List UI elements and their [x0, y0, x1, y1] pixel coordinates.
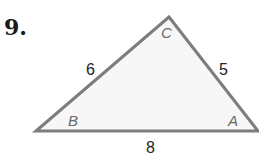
side-length-ca: 5	[219, 61, 228, 78]
problem-figure: 9. C B A 6 5 8	[0, 0, 259, 156]
vertex-label-a: A	[227, 112, 238, 129]
side-length-bc: 6	[86, 61, 95, 78]
side-length-ba: 8	[146, 139, 155, 156]
triangle-diagram: C B A 6 5 8	[0, 0, 259, 156]
vertex-label-c: C	[161, 24, 172, 41]
vertex-label-b: B	[68, 112, 78, 129]
